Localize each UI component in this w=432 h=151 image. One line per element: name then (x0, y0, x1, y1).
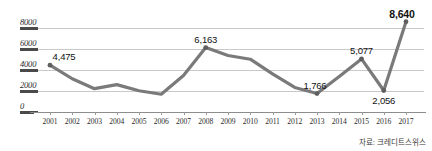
plot-area (38, 20, 424, 112)
y-axis-label-8000: 8000 (20, 18, 36, 27)
x-axis-label-2007: 2007 (176, 117, 191, 126)
y-axis-tick-4000 (20, 69, 38, 72)
y-axis-label-0: 0 (20, 102, 24, 111)
x-axis-label-2016: 2016 (376, 117, 391, 126)
y-axis-label-6000: 6000 (20, 39, 36, 48)
x-axis-label-2017: 2017 (399, 117, 414, 126)
x-axis-tick-2017 (406, 112, 407, 115)
x-axis-tick-2005 (139, 112, 140, 115)
x-axis-tick-2001 (50, 112, 51, 115)
data-point-2016 (381, 88, 386, 93)
x-axis-tick-2011 (273, 112, 274, 115)
x-axis-label-2010: 2010 (243, 117, 258, 126)
x-axis-label-2012: 2012 (287, 117, 302, 126)
chart-container: 02000400060008000 2001200220032004200520… (0, 0, 432, 151)
x-axis-tick-2013 (317, 112, 318, 115)
x-axis-label-2014: 2014 (332, 117, 347, 126)
y-axis-tick-2000 (20, 90, 38, 93)
x-axis-tick-2004 (117, 112, 118, 115)
value-label-2013: 1,766 (304, 80, 327, 91)
y-axis-label-2000: 2000 (20, 81, 36, 90)
x-axis-tick-2010 (250, 112, 251, 115)
x-axis-tick-2002 (72, 112, 73, 115)
x-axis-label-2003: 2003 (87, 117, 102, 126)
x-axis-tick-2007 (184, 112, 185, 115)
x-axis-tick-2016 (384, 112, 385, 115)
data-point-2013 (315, 91, 320, 96)
y-axis-tick-6000 (20, 48, 38, 51)
data-point-2017 (404, 19, 409, 24)
data-point-2008 (203, 45, 208, 50)
source-note: 자료: 크레디트스위스 (359, 136, 426, 147)
x-axis-label-2015: 2015 (354, 117, 369, 126)
x-axis-tick-2015 (362, 112, 363, 115)
y-axis-tick-8000 (20, 27, 38, 30)
x-axis-tick-2009 (228, 112, 229, 115)
x-axis-label-2001: 2001 (43, 117, 58, 126)
x-axis-tick-2008 (206, 112, 207, 115)
x-axis-label-2006: 2006 (154, 117, 169, 126)
x-axis-label-2005: 2005 (132, 117, 147, 126)
data-point-2001 (48, 63, 53, 68)
value-label-2016: 2,056 (372, 95, 395, 106)
series-line (50, 22, 406, 95)
x-axis-label-2004: 2004 (109, 117, 124, 126)
y-axis-label-4000: 4000 (20, 60, 36, 69)
line-series (38, 20, 424, 112)
value-label-2001: 4,475 (53, 51, 76, 62)
x-axis-label-2009: 2009 (221, 117, 236, 126)
x-axis-tick-2003 (95, 112, 96, 115)
value-label-2008: 6,163 (194, 34, 217, 45)
value-label-2015: 5,077 (350, 45, 373, 56)
data-point-2015 (359, 57, 364, 62)
x-axis-tick-2006 (161, 112, 162, 115)
x-axis-label-2002: 2002 (65, 117, 80, 126)
x-axis-tick-2014 (339, 112, 340, 115)
x-axis-label-2008: 2008 (198, 117, 213, 126)
x-axis-label-2011: 2011 (265, 117, 280, 126)
value-label-2017: 8,640 (389, 8, 414, 20)
x-axis-label-2013: 2013 (310, 117, 325, 126)
x-axis-tick-2012 (295, 112, 296, 115)
